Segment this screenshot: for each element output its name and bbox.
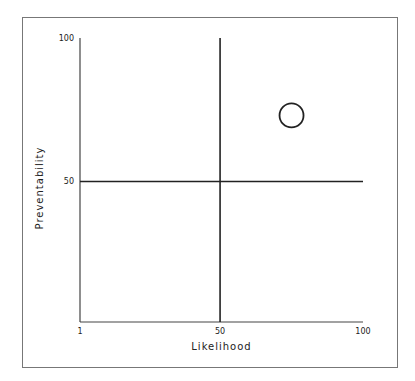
x-tick-labels: 150100	[77, 327, 370, 336]
y-tick-label: 100	[59, 34, 74, 43]
x-tick-label: 1	[77, 327, 82, 336]
quadrant-chart: 150100 50100 Likelihood Preventability	[0, 0, 415, 381]
y-axis-label: Preventability	[34, 147, 45, 230]
y-tick-label: 50	[64, 177, 74, 186]
data-point-marker	[280, 103, 304, 127]
x-tick-label: 100	[355, 327, 370, 336]
data-points	[280, 103, 304, 127]
y-tick-labels: 50100	[59, 34, 74, 186]
x-tick-label: 50	[215, 327, 225, 336]
x-axis-label: Likelihood	[191, 341, 251, 352]
